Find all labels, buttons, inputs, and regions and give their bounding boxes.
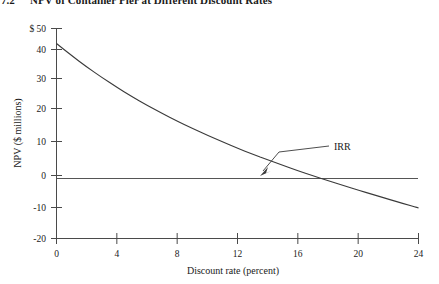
chart-plot-area: $ 50 40 30 20 10 0 -10 -20 0 4 8 12 16 2… (0, 0, 439, 284)
y-tick-label-30: 30 (37, 74, 47, 84)
x-tick-label-8: 8 (175, 249, 180, 259)
irr-leader-line (279, 146, 329, 152)
figure-page: 7.2 NPV of Container Pier at Different D… (0, 0, 439, 284)
x-tick-label-12: 12 (233, 249, 243, 259)
y-tick-label-0: 0 (41, 171, 46, 181)
npv-curve (57, 44, 419, 208)
irr-leader-line-diagonal (263, 152, 279, 171)
x-tick-label-20: 20 (353, 249, 363, 259)
x-tick-label-0: 0 (54, 249, 59, 259)
x-tick-label-4: 4 (114, 249, 119, 259)
x-tick-label-16: 16 (293, 249, 303, 259)
irr-annotation-label: IRR (334, 141, 351, 152)
x-tick-label-24: 24 (414, 249, 424, 259)
y-tick-label-neg10: -10 (33, 203, 46, 213)
y-tick-label-50: $ 50 (29, 24, 46, 34)
y-axis-title: NPV ($ millions) (12, 98, 24, 167)
x-axis-title: Discount rate (percent) (187, 265, 279, 277)
y-tick-label-10: 10 (37, 137, 47, 147)
y-tick-label-20: 20 (37, 104, 47, 114)
y-tick-label-neg20: -20 (33, 234, 46, 244)
y-tick-label-40: 40 (37, 45, 47, 55)
